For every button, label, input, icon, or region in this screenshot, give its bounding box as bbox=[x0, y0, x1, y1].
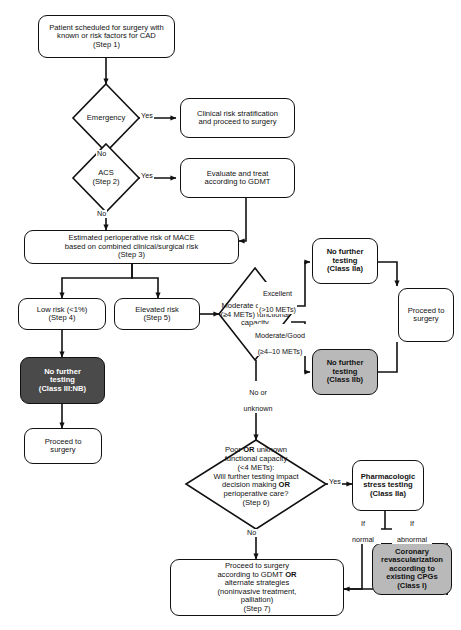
edge-iib-to-proceed bbox=[378, 342, 397, 372]
if-abnormal-l1: If bbox=[410, 519, 414, 528]
mace-line3: (Step 3) bbox=[118, 250, 145, 259]
node-no-further-testing-class-iia[interactable]: No further testing (Class IIa) bbox=[312, 238, 378, 284]
pharm-text: Pharmacologic stress testing (Class IIa) bbox=[361, 473, 415, 499]
edge-label-poor-no: No bbox=[246, 529, 257, 537]
edge-label-emergency-yes: Yes bbox=[140, 112, 154, 120]
edge-label-mets-unknown: No or unknown bbox=[234, 381, 282, 413]
revasc-line5: (Class I) bbox=[397, 581, 427, 590]
moderate-l1: Moderate/Good bbox=[255, 331, 305, 340]
edge-label-emergency-no: No bbox=[96, 150, 107, 158]
node-proceed-to-surgery-left[interactable]: Proceed to surgery bbox=[24, 428, 102, 464]
node-start-text: Patient scheduled for surgery with known… bbox=[49, 24, 163, 50]
node-coronary-revascularization[interactable]: Coronary revascularization according to … bbox=[372, 543, 452, 595]
node-no-further-testing-class-iii-nb[interactable]: No further testing (Class III:NB) bbox=[20, 357, 105, 404]
start-line3: (Step 1) bbox=[93, 40, 120, 49]
edge-label-poor-yes: Yes bbox=[328, 478, 342, 486]
revasc-text: Coronary revascularization according to … bbox=[381, 548, 443, 591]
iib-text: No further testing (Class IIb) bbox=[327, 359, 364, 385]
iia-text: No further testing (Class IIa) bbox=[327, 248, 364, 274]
elevated-risk-line2: (Step 5) bbox=[143, 313, 170, 322]
clinical-risk-text: Clinical risk stratification and proceed… bbox=[197, 110, 278, 127]
node-clinical-risk-stratification[interactable]: Clinical risk stratification and proceed… bbox=[180, 98, 295, 138]
proceed-left-text: Proceed to surgery bbox=[45, 438, 82, 455]
if-abnormal-l2: abnormal bbox=[397, 535, 427, 544]
node-pharmacologic-stress-testing[interactable]: Pharmacologic stress testing (Class IIa) bbox=[352, 460, 424, 511]
edge-label-mets-moderate: Moderate/Good (≥4–10 METs) bbox=[254, 324, 306, 356]
diamond-emergency bbox=[73, 84, 139, 152]
low-risk-text: Low risk (<1%) (Step 4) bbox=[37, 306, 87, 323]
node-elevated-risk[interactable]: Elevated risk (Step 5) bbox=[114, 298, 200, 330]
proceed-right-text: Proceed to surgery bbox=[408, 307, 445, 324]
unknown-l1: No or bbox=[249, 388, 267, 397]
excellent-l1: Excellent bbox=[263, 289, 292, 298]
edge-label-mets-excellent: Excellent (>10 METs) bbox=[258, 282, 297, 314]
edge-gdmt-to-mace bbox=[239, 198, 246, 241]
edge-label-if-abnormal: If abnormal bbox=[392, 512, 432, 544]
proceed-left-line2: surgery bbox=[50, 445, 75, 454]
node-low-risk[interactable]: Low risk (<1%) (Step 4) bbox=[18, 298, 106, 330]
flowchart-canvas: Patient scheduled for surgery with known… bbox=[0, 0, 461, 630]
node-estimated-perioperative-risk[interactable]: Estimated perioperative risk of MACE bas… bbox=[24, 230, 239, 264]
iia-line3: (Class IIa) bbox=[327, 264, 363, 273]
edge-label-acs-yes: Yes bbox=[140, 172, 154, 180]
diamond-poor-unknown bbox=[186, 440, 326, 529]
edge-label-if-normal: If normal bbox=[345, 512, 381, 544]
final-text: Proceed to surgery according to GDMT OR … bbox=[217, 562, 296, 613]
no-testing-iiinb-text: No further testing (Class III:NB) bbox=[39, 368, 86, 394]
clinical-risk-line2: and proceed to surgery bbox=[198, 117, 276, 126]
node-no-further-testing-class-iib[interactable]: No further testing (Class IIb) bbox=[312, 349, 378, 395]
unknown-l2: unknown bbox=[244, 404, 273, 413]
gdmt-line2: according to GDMT bbox=[205, 177, 271, 186]
iib-line3: (Class IIb) bbox=[327, 375, 363, 384]
gdmt-text: Evaluate and treat according to GDMT bbox=[205, 170, 271, 187]
iiinb-line3: (Class III:NB) bbox=[39, 384, 86, 393]
low-risk-line2: (Step 4) bbox=[48, 313, 75, 322]
if-normal-l1: If bbox=[361, 519, 365, 528]
edge-label-acs-no: No bbox=[96, 210, 107, 218]
node-proceed-to-surgery-right[interactable]: Proceed to surgery bbox=[398, 288, 454, 342]
node-start[interactable]: Patient scheduled for surgery with known… bbox=[38, 15, 175, 58]
moderate-l2: (≥4–10 METs) bbox=[258, 347, 303, 356]
final-line6: (Step 7) bbox=[243, 604, 270, 613]
mace-text: Estimated perioperative risk of MACE bas… bbox=[65, 234, 198, 260]
edge-mace-to-elevated-risk bbox=[132, 264, 158, 298]
if-normal-l2: normal bbox=[352, 535, 374, 544]
pharm-line3: (Class IIa) bbox=[370, 489, 406, 498]
node-evaluate-treat-gdmt[interactable]: Evaluate and treat according to GDMT bbox=[180, 158, 295, 198]
edge-iia-to-proceed bbox=[378, 262, 397, 286]
excellent-l2: (>10 METs) bbox=[259, 305, 296, 314]
proceed-right-line2: surgery bbox=[413, 314, 438, 323]
elevated-risk-text: Elevated risk (Step 5) bbox=[135, 306, 178, 323]
node-proceed-to-surgery-gdmt[interactable]: Proceed to surgery according to GDMT OR … bbox=[170, 559, 344, 616]
edge-mace-to-low-risk bbox=[62, 264, 132, 298]
